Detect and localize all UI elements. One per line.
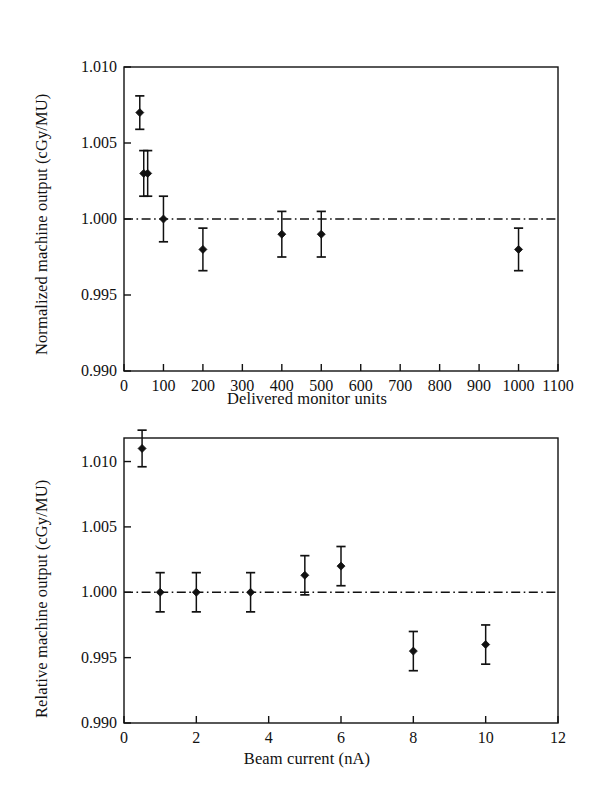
x-tick-label: 8 xyxy=(409,729,417,747)
x-tick-label: 800 xyxy=(428,377,452,395)
y-tick-label: 0.990 xyxy=(81,362,117,380)
data-point xyxy=(317,211,326,257)
x-tick-label: 1000 xyxy=(503,377,535,395)
x-tick-label: 12 xyxy=(550,729,566,747)
x-tick-label: 200 xyxy=(191,377,215,395)
data-point xyxy=(246,573,255,612)
chart-panel-bottom: Relative machine output (cGy/MU) Beam cu… xyxy=(0,400,614,787)
x-tick-label: 500 xyxy=(309,377,333,395)
data-marker-diamond xyxy=(482,641,490,649)
data-point xyxy=(137,430,146,467)
x-tick-label: 6 xyxy=(337,729,345,747)
x-tick-label: 400 xyxy=(270,377,294,395)
y-axis-label-bottom: Relative machine output (cGy/MU) xyxy=(32,480,52,718)
y-tick-label: 0.995 xyxy=(81,286,117,304)
x-tick-label: 1100 xyxy=(542,377,573,395)
figure-root: Normalized machine output (cGy/MU) Deliv… xyxy=(0,0,614,787)
data-point xyxy=(159,196,168,242)
data-marker-diamond xyxy=(247,588,255,596)
data-marker-diamond xyxy=(199,245,207,253)
x-tick-label: 0 xyxy=(120,377,128,395)
data-point xyxy=(198,228,207,271)
data-marker-diamond xyxy=(156,588,164,596)
data-point xyxy=(300,556,309,595)
data-marker-diamond xyxy=(317,230,325,238)
y-tick-label: 1.000 xyxy=(81,583,117,601)
data-series xyxy=(137,430,490,671)
data-marker-diamond xyxy=(138,444,146,452)
data-marker-diamond xyxy=(337,562,345,570)
x-axis-label-bottom: Beam current (nA) xyxy=(0,749,614,769)
x-tick-label: 700 xyxy=(388,377,412,395)
data-point xyxy=(481,625,490,664)
data-marker-diamond xyxy=(409,647,417,655)
data-marker-diamond xyxy=(192,588,200,596)
x-tick-label: 2 xyxy=(192,729,200,747)
y-tick-label: 1.005 xyxy=(81,134,117,152)
y-tick-label: 0.995 xyxy=(81,649,117,667)
data-point xyxy=(514,228,523,271)
data-point xyxy=(277,211,286,257)
data-marker-diamond xyxy=(301,571,309,579)
data-series xyxy=(135,96,523,271)
x-tick-label: 100 xyxy=(151,377,175,395)
x-tick-label: 4 xyxy=(265,729,273,747)
data-point xyxy=(192,573,201,612)
y-tick-label: 0.990 xyxy=(81,714,117,732)
y-tick-label: 1.010 xyxy=(81,58,117,76)
data-marker-diamond xyxy=(159,215,167,223)
y-tick-label: 1.005 xyxy=(81,518,117,536)
data-marker-diamond xyxy=(278,230,286,238)
y-tick-label: 1.010 xyxy=(81,453,117,471)
y-tick-label: 1.000 xyxy=(81,210,117,228)
data-marker-diamond xyxy=(515,245,523,253)
x-tick-label: 600 xyxy=(349,377,373,395)
x-tick-label: 300 xyxy=(230,377,254,395)
data-point xyxy=(156,573,165,612)
x-tick-label: 0 xyxy=(120,729,128,747)
data-point xyxy=(409,631,418,670)
y-axis-label-top: Normalized machine output (cGy/MU) xyxy=(32,94,52,355)
x-tick-label: 10 xyxy=(478,729,494,747)
chart-panel-top: Normalized machine output (cGy/MU) Deliv… xyxy=(0,0,614,400)
data-point xyxy=(135,96,144,129)
data-point xyxy=(336,547,345,586)
data-marker-diamond xyxy=(136,109,144,117)
x-tick-label: 900 xyxy=(467,377,491,395)
